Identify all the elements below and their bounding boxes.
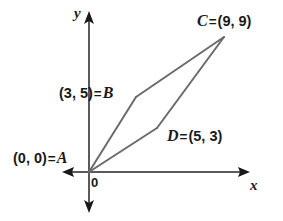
vertex-b-equals: = [93, 86, 103, 101]
x-axis-label: x [250, 178, 258, 193]
edge-b-to-c [136, 37, 224, 97]
edge-c-to-d [157, 37, 224, 128]
vertex-d-point: D [167, 127, 179, 144]
vertex-a-equals: = [47, 151, 57, 166]
y-axis-label: y [74, 6, 81, 21]
vertex-c-equals: = [208, 14, 218, 29]
origin-label: 0 [91, 176, 98, 189]
vertex-label-a: (0, 0)=A [13, 150, 67, 166]
vertex-d-coords: (5, 3) [188, 128, 222, 144]
vertex-b-point: B [103, 84, 114, 101]
vertex-d-equals: = [179, 129, 189, 144]
vertex-c-coords: (9, 9) [218, 13, 252, 29]
vertex-b-coords: (3, 5) [59, 85, 93, 101]
vertex-a-coords: (0, 0) [13, 150, 47, 166]
vertex-label-c: C=(9, 9) [197, 13, 251, 29]
edge-a-to-b [89, 97, 136, 172]
vertex-label-b: (3, 5)=B [59, 85, 113, 101]
vertex-a-point: A [57, 149, 68, 166]
coordinate-diagram-svg [0, 0, 283, 221]
vertex-c-point: C [197, 12, 208, 29]
geometry-figure: (0, 0)=A (3, 5)=B C=(9, 9) D=(5, 3) 0 y … [0, 0, 283, 221]
vertex-label-d: D=(5, 3) [167, 128, 222, 144]
edge-d-to-a [89, 128, 157, 172]
